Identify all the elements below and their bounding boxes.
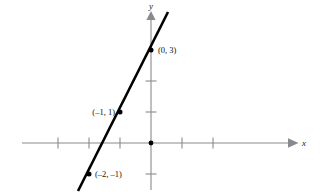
plot-canvas: x y (–2, –1) (–1, 1) (0, 3)	[0, 0, 320, 195]
point-label-neg1-1: (–1, 1)	[92, 107, 115, 117]
coordinate-plane-figure: x y (–2, –1) (–1, 1) (0, 3)	[0, 0, 320, 195]
tick-marks-group	[58, 81, 213, 174]
data-point-neg1-1	[118, 110, 123, 115]
data-point-0-3	[149, 48, 154, 53]
x-axis-arrow-icon	[288, 138, 299, 148]
y-axis-arrow-icon	[146, 11, 155, 20]
data-point-neg2-neg1	[87, 172, 92, 177]
plotted-line	[78, 12, 168, 191]
origin-dot	[149, 141, 154, 146]
point-label-0-3: (0, 3)	[158, 45, 177, 55]
axes-group	[22, 11, 299, 190]
point-label-neg2-neg1: (–2, –1)	[95, 169, 122, 179]
x-axis-label: x	[301, 138, 306, 148]
y-axis-label: y	[148, 1, 153, 11]
